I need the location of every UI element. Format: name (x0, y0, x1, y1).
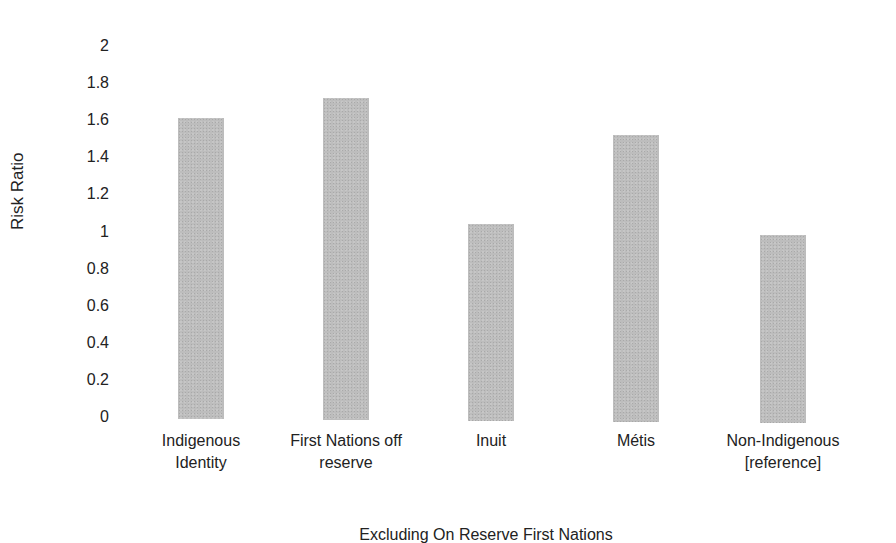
x-category-label: Métis (561, 430, 711, 474)
bar (178, 118, 224, 419)
x-category-label: Inuit (416, 430, 566, 474)
x-axis-label: Excluding On Reserve First Nations (38, 527, 896, 543)
x-category-label: Non-Indigenous[reference] (708, 430, 858, 474)
y-tick-label: 1.4 (49, 149, 109, 165)
y-tick-label: 1.8 (49, 75, 109, 91)
y-tick-label: 0.2 (49, 372, 109, 388)
bar (323, 98, 369, 420)
bar (760, 235, 806, 423)
y-tick-label: 0.6 (49, 298, 109, 314)
y-tick-label: 1.2 (49, 186, 109, 202)
y-tick-label: 0.8 (49, 261, 109, 277)
y-axis-label: Risk Ratio (8, 153, 28, 230)
bar (613, 135, 659, 422)
y-tick-label: 0 (49, 409, 109, 425)
y-tick-label: 1 (49, 224, 109, 240)
y-tick-label: 1.6 (49, 112, 109, 128)
y-tick-label: 0.4 (49, 335, 109, 351)
x-category-label: IndigenousIdentity (126, 430, 276, 474)
x-category-label: First Nations offreserve (271, 430, 421, 474)
y-tick-label: 2 (49, 38, 109, 54)
bar (468, 224, 514, 421)
